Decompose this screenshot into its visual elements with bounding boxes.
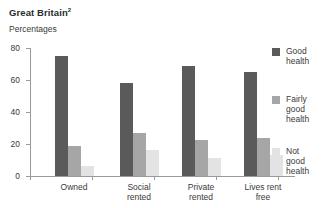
bar — [55, 56, 68, 176]
y-tick-mark: 80 — [26, 48, 30, 49]
bar — [257, 138, 270, 176]
x-axis-label: Owned — [38, 182, 110, 192]
legend-label-line: good — [286, 104, 323, 114]
bar — [182, 66, 195, 176]
legend-swatch-icon — [272, 96, 280, 104]
bar-chart: Great Britain2 Percentages 806040200 Own… — [0, 0, 323, 208]
bar — [133, 133, 146, 176]
legend-label: Goodhealth — [286, 46, 323, 66]
x-axis-label-line: Owned — [38, 182, 110, 192]
y-tick-label: 0 — [15, 171, 20, 181]
legend-swatch-icon — [272, 148, 280, 156]
legend-label-line: good — [286, 156, 323, 166]
y-tick-mark: 60 — [26, 80, 30, 81]
y-tick-label: 40 — [11, 107, 20, 117]
bar — [146, 150, 159, 176]
chart-title-text: Great Britain — [9, 7, 68, 18]
legend-swatch-icon — [272, 48, 280, 56]
bar — [270, 155, 283, 176]
y-tick-mark: 40 — [26, 112, 30, 113]
bar — [120, 83, 133, 176]
legend-label: Fairlygoodhealth — [286, 94, 323, 124]
plot-area: 806040200 — [30, 48, 295, 176]
x-axis-label-line: free — [227, 192, 299, 202]
y-axis-line — [30, 48, 31, 176]
chart-subtitle: Percentages — [9, 24, 57, 34]
legend-label-line: health — [286, 166, 323, 176]
x-axis-label: Lives rentfree — [227, 182, 299, 202]
bar — [68, 146, 81, 176]
legend-label-line: Not — [286, 146, 323, 156]
bar — [195, 140, 208, 176]
legend-label-line: Good — [286, 46, 323, 56]
chart-title-footnote-marker: 2 — [68, 7, 71, 13]
x-tick-mark — [30, 176, 31, 180]
x-tick-mark — [216, 176, 217, 180]
chart-title: Great Britain2 — [9, 7, 71, 18]
legend-label-line: Fairly — [286, 94, 323, 104]
y-tick-label: 60 — [11, 75, 20, 85]
y-tick-label: 80 — [11, 43, 20, 53]
y-tick-label: 20 — [11, 139, 20, 149]
bar — [81, 166, 94, 176]
x-tick-mark — [154, 176, 155, 180]
x-axis-line — [30, 176, 295, 177]
x-axis-label-line: Lives rent — [227, 182, 299, 192]
legend-label-line: health — [286, 114, 323, 124]
y-tick-mark: 20 — [26, 144, 30, 145]
x-tick-mark — [92, 176, 93, 180]
legend-label: Notgoodhealth — [286, 146, 323, 176]
legend-label-line: health — [286, 56, 323, 66]
x-tick-mark — [278, 176, 279, 180]
bar — [208, 158, 221, 176]
bar — [244, 72, 257, 176]
